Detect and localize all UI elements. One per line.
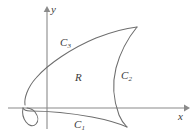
curve-label-c3: C3 <box>60 37 71 48</box>
figure-canvas <box>0 0 195 139</box>
math-figure-region-diagram: y x R C3 C2 C1 <box>0 0 195 139</box>
region-label-r: R <box>75 72 82 83</box>
x-axis-label: x <box>178 111 183 122</box>
y-axis-label: y <box>51 4 56 15</box>
curve-label-c1-subscript: 1 <box>81 124 85 132</box>
curve-label-c3-subscript: 3 <box>67 42 71 50</box>
curve-label-c1: C1 <box>74 119 85 130</box>
y-axis-arrowhead <box>44 6 51 12</box>
curve-label-c2: C2 <box>121 70 132 81</box>
curve-label-c2-subscript: 2 <box>128 75 132 83</box>
curve-c3-path <box>25 27 137 105</box>
x-axis-arrowhead <box>184 105 190 112</box>
